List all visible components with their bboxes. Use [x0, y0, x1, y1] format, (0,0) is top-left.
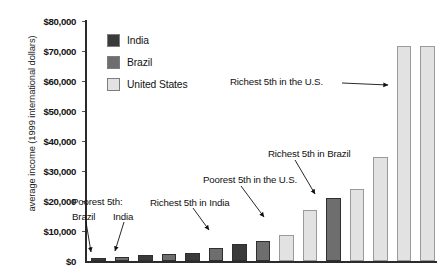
- annotation-arrows: [0, 0, 441, 276]
- bar-chart: average income (1999 international dolla…: [0, 0, 441, 276]
